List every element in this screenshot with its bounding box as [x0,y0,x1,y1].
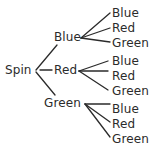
stage2-leaf-node-blue: Blue [112,7,139,19]
stage2-leaf-node-blue: Blue [112,103,139,115]
stage2-branch-line-1 [81,28,110,38]
stage2-leaf-node-red: Red [112,70,135,82]
stage2-leaf-node-green: Green [112,85,149,97]
stage2-branch-line-3 [79,61,108,71]
stage1-node-green: Green [44,97,81,109]
stage2-branch-line-5 [79,71,108,90]
stage2-branch-line-0 [81,13,110,38]
stage2-leaf-node-blue: Blue [112,55,139,67]
stage2-leaf-node-green: Green [112,37,149,49]
stage2-leaf-node-red: Red [112,22,135,34]
stage2-leaf-node-red: Red [112,118,135,130]
stage2-branch-line-2 [81,38,110,42]
stage1-node-red: Red [54,64,77,76]
stage2-branch-line-8 [85,104,110,137]
stage2-branch-line-7 [85,104,110,122]
stage1-node-blue: Blue [54,31,81,43]
probability-tree-diagram: Spin BlueRedGreen BlueRedGreenBlueRedGre… [0,0,161,148]
stage2-leaf-node-green: Green [112,133,149,145]
tree-root-node-spin: Spin [5,64,32,76]
stage1-branch-line-2 [36,72,55,95]
stage2-branch-group [79,13,110,137]
